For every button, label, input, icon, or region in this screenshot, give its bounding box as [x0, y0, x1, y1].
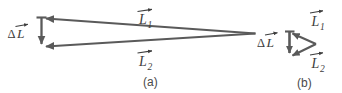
label-l1-panel-a: L 1 — [138, 9, 153, 30]
label-l1-symbol-panel-b: L — [311, 14, 320, 29]
label-l1-symbol-panel-a: L — [138, 12, 147, 27]
panel-caption-b: (b) — [297, 76, 312, 90]
label-l2-panel-b: L 2 — [310, 53, 325, 74]
label-l2-symbol-panel-b: L — [311, 56, 320, 71]
label-l1-panel-b: L 1 — [310, 11, 325, 32]
panel-a: Δ L L 1 L 2 (a) — [8, 9, 256, 89]
label-delta-symbol-panel-a: Δ — [8, 27, 16, 41]
vector-l2-arrow-panel-a — [46, 34, 256, 47]
vector-l1-arrow-panel-b — [293, 34, 317, 45]
label-l2-subscript-panel-b: 2 — [320, 64, 325, 74]
panel-caption-a: (a) — [143, 75, 158, 89]
label-l-symbol-panel-b: L — [266, 35, 275, 50]
label-l2-subscript-panel-a: 2 — [148, 62, 153, 72]
label-l2-panel-a: L 2 — [138, 51, 153, 72]
vector-diagram-figure: Δ L L 1 L 2 (a) — [0, 0, 342, 93]
label-delta-symbol-panel-b: Δ — [257, 36, 265, 50]
label-l1-subscript-panel-a: 1 — [148, 20, 153, 30]
label-delta-l-panel-a: Δ L — [8, 24, 29, 41]
label-l2-symbol-panel-a: L — [138, 54, 147, 69]
label-l1-subscript-panel-b: 1 — [320, 22, 325, 32]
label-delta-l-panel-b: Δ L — [257, 33, 278, 50]
panel-b: Δ L L 1 L 2 (b) — [257, 11, 325, 90]
vector-l2-arrow-panel-b — [293, 44, 317, 56]
figure-canvas: Δ L L 1 L 2 (a) — [0, 0, 342, 93]
label-l-symbol-panel-a: L — [16, 26, 25, 41]
